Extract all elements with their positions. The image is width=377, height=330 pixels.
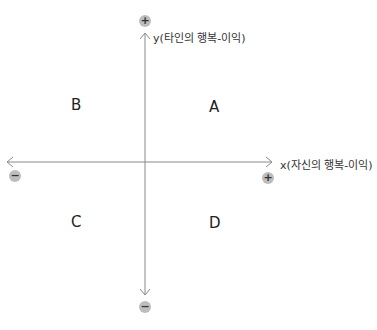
x-axis-label: x(자신의 행복-이익) [280,156,373,172]
quadrant-label-d: D [209,214,221,232]
y-negative-sign-icon: − [139,301,151,313]
y-axis-label: y(타인의 행복-이익) [153,29,246,45]
quadrant-label-c: C [71,213,81,231]
quadrant-label-b: B [71,96,81,114]
x-negative-sign-icon: − [9,170,21,182]
y-positive-sign-icon: + [139,15,151,27]
quadrant-label-a: A [209,98,219,116]
x-positive-sign-icon: + [262,172,274,184]
